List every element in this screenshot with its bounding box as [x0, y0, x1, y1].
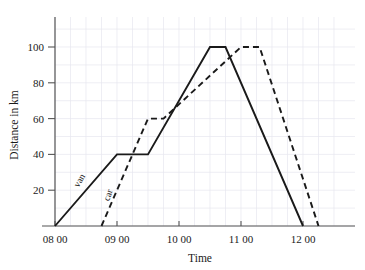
distance-time-graph: 20406080100 08 0009 0010 0011 0012 00 Di…: [0, 0, 365, 270]
x-tick-label: 11 00: [229, 233, 254, 245]
y-tick-label: 20: [33, 184, 45, 196]
y-tick-label: 60: [33, 113, 45, 125]
y-tick-label: 40: [33, 148, 45, 160]
y-axis-title: Distance in km: [8, 90, 20, 160]
x-tick-label: 10 00: [167, 233, 192, 245]
x-tick-label: 08 00: [43, 233, 68, 245]
x-tick-label: 12 00: [291, 233, 316, 245]
y-tick-label: 100: [28, 41, 45, 53]
x-tick-label: 09 00: [105, 233, 130, 245]
x-axis-title: Time: [188, 252, 212, 264]
y-tick-label: 80: [33, 77, 45, 89]
chart-canvas: 20406080100 08 0009 0010 0011 0012 00 Di…: [0, 0, 365, 270]
